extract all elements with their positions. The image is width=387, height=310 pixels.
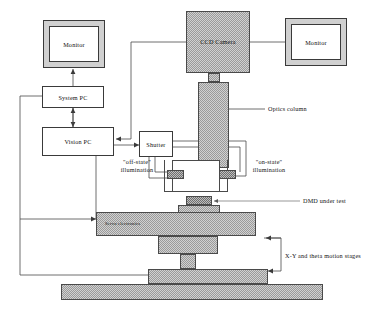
vision-pc-label: Vision PC	[64, 138, 91, 145]
wire-ccd-to-visionpc	[116, 42, 195, 139]
dmd-test-station-diagram: Monitor Monitor CCD Camera System PC Vis…	[0, 0, 387, 310]
ccd-camera-label: CCD Camera	[200, 38, 236, 46]
optics-column	[198, 82, 229, 168]
on-state-illumination-label-line2: illumination	[247, 166, 291, 174]
optics-column-label: Optics column	[268, 105, 307, 113]
monitor-left-screen: Monitor	[49, 26, 99, 62]
motion-stages-label: X-Y and theta motion stages	[285, 252, 361, 260]
theta-stage	[158, 236, 218, 254]
dmd-under-test	[186, 196, 212, 205]
on-state-illumination-label-line1: "on-state"	[247, 158, 291, 166]
monitor-left-label: Monitor	[63, 41, 85, 48]
pointer-motion-stages-lower	[264, 238, 281, 271]
ccd-camera: CCD Camera	[186, 11, 250, 73]
xy-stage	[148, 269, 268, 284]
wire-systempc-to-servo	[20, 96, 96, 219]
shutter: Shutter	[139, 131, 173, 157]
monitor-right-label: Monitor	[305, 39, 327, 46]
servo-electronics-label: Servo electronics	[97, 221, 140, 227]
monitor-right: Monitor	[285, 18, 347, 66]
stage-post	[180, 254, 196, 269]
shutter-label: Shutter	[146, 141, 165, 148]
camera-neck	[208, 73, 220, 82]
base-plate	[61, 284, 323, 300]
off-state-illumination-label-line2: illumination	[115, 166, 159, 174]
dmd-under-test-label: DMD under test	[303, 197, 346, 205]
system-pc: System PC	[42, 86, 104, 108]
off-state-illuminator	[167, 170, 184, 179]
on-state-illuminator	[219, 170, 236, 179]
monitor-left: Monitor	[43, 20, 105, 68]
system-pc-label: System PC	[58, 94, 87, 101]
servo-electronics: Servo electronics	[96, 212, 256, 236]
monitor-right-screen: Monitor	[291, 24, 341, 60]
vision-pc: Vision PC	[42, 127, 114, 156]
off-state-illumination-label-line1: "off-state"	[115, 158, 159, 166]
